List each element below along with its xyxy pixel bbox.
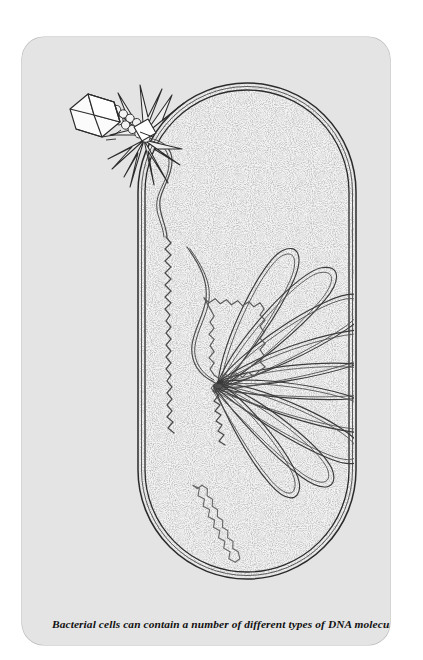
figure-page: Bacterial cells can contain a number of … <box>0 0 423 660</box>
figure-card: Bacterial cells can contain a number of … <box>22 37 390 645</box>
bacterial-cell-diagram <box>22 37 390 645</box>
bacterial-cell <box>138 83 356 579</box>
phage-head <box>70 94 121 140</box>
figure-caption: Bacterial cells can contain a number of … <box>52 617 372 631</box>
